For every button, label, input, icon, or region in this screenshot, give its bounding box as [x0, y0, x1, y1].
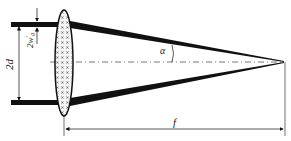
converging-beam-upper — [70, 21, 284, 62]
lens-texture — [56, 11, 72, 115]
beam-waist-label: 2w′0 — [24, 33, 36, 48]
converging-beam-lower — [70, 62, 284, 106]
half-angle-label: α — [160, 45, 166, 56]
angle-arc — [172, 45, 174, 62]
focal-length-label: f — [173, 116, 178, 128]
lens-focusing-diagram: × 2d 2w′0 α f — [0, 0, 291, 141]
beam-separation-label: 2d — [3, 59, 15, 71]
